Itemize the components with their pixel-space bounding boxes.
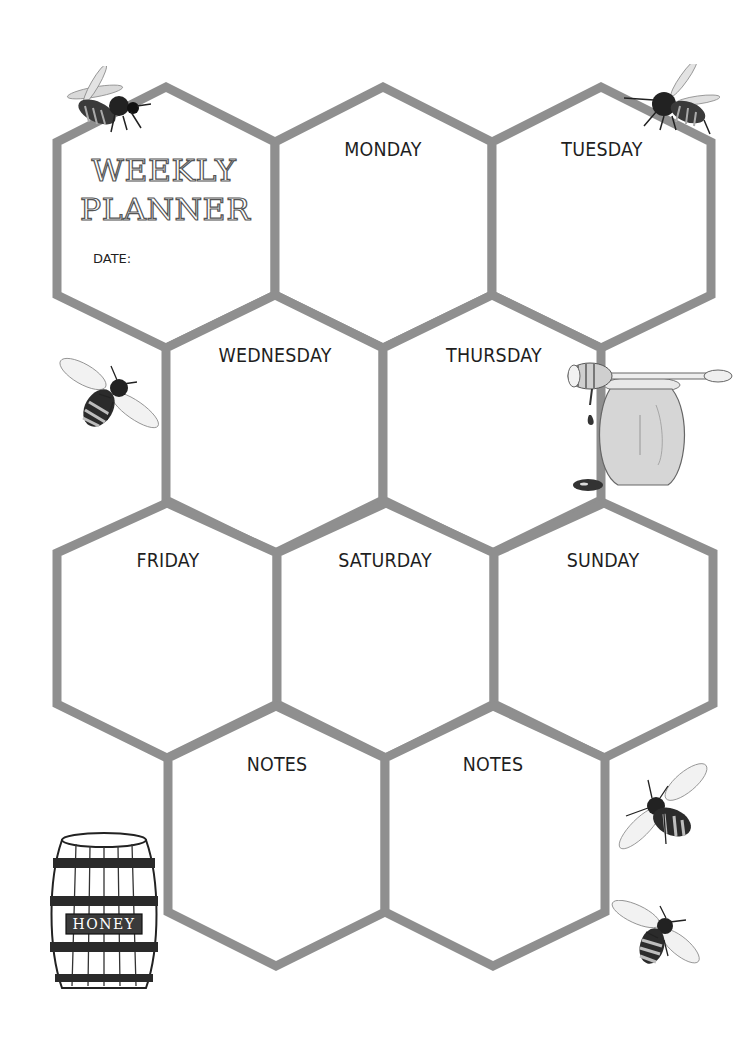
date-input-area[interactable] bbox=[130, 264, 250, 265]
honey-dipper-icon bbox=[568, 363, 612, 389]
bee-icon bbox=[620, 64, 720, 144]
hex-notes-2[interactable] bbox=[385, 706, 605, 966]
bee-icon bbox=[55, 352, 165, 438]
bee-icon bbox=[55, 66, 155, 141]
hex-notes-1[interactable] bbox=[168, 706, 385, 966]
planner-title-weekly: WEEKLY bbox=[80, 153, 248, 188]
label-wednesday: WEDNESDAY bbox=[183, 344, 367, 366]
label-friday: FRIDAY bbox=[76, 549, 260, 571]
label-notes-2: NOTES bbox=[401, 753, 585, 775]
honey-barrel-icon: HONEY bbox=[46, 830, 166, 998]
honey-jar-icon bbox=[560, 355, 740, 500]
planner-title-planner: PLANNER bbox=[80, 192, 248, 227]
label-monday: MONDAY bbox=[291, 138, 475, 160]
label-saturday: SATURDAY bbox=[293, 549, 477, 571]
bee-icon bbox=[608, 752, 708, 852]
label-sunday: SUNDAY bbox=[511, 549, 695, 571]
bee-icon bbox=[610, 900, 705, 972]
date-label: DATE: bbox=[93, 251, 131, 266]
label-notes-1: NOTES bbox=[185, 753, 369, 775]
label-thursday: THURSDAY bbox=[402, 344, 586, 366]
barrel-label-text: HONEY bbox=[73, 916, 136, 932]
weekly-planner-page: WEEKLY PLANNER DATE: MONDAY TUESDAY WEDN… bbox=[0, 0, 749, 1053]
